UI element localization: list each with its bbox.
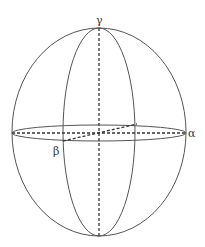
beta-label: β xyxy=(53,145,59,158)
alpha-label: α xyxy=(188,127,196,140)
gamma-label: γ xyxy=(96,14,103,27)
ellipsoid-diagram: γ α β xyxy=(0,0,205,247)
